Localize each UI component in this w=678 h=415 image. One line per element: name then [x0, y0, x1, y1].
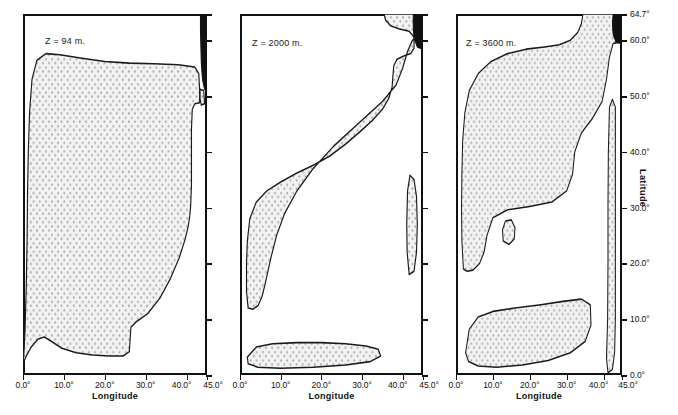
longitude-tick-label: 45.0°	[419, 380, 438, 390]
latitude-tick-label: 50.0°	[630, 91, 649, 101]
longitude-tick-label: 20.0°	[312, 380, 331, 390]
longitude-tick-label: 10.0°	[54, 380, 73, 390]
contour-region	[247, 14, 423, 309]
longitude-tick-label: 0.0°	[16, 380, 31, 390]
latitude-tick	[206, 96, 212, 98]
x-axis: 0.0°10.0°20.0°30.0°40.0°45.0°Longitude	[23, 375, 207, 401]
longitude-tick-label: 10.0°	[271, 380, 290, 390]
longitude-tick-label: 30.0°	[557, 380, 576, 390]
latitude-tick	[206, 263, 212, 265]
contour-surface-z3600	[456, 14, 622, 375]
longitude-tick-label: 40.0°	[172, 380, 191, 390]
panel-title: Z = 94 m.	[45, 36, 85, 46]
contour-region	[462, 14, 622, 271]
contour-region	[200, 89, 204, 105]
latitude-tick	[422, 96, 428, 98]
contour-region	[413, 14, 423, 49]
latitude-tick	[422, 263, 428, 265]
longitude-tick-label: 40.0°	[388, 380, 407, 390]
latitude-tick	[422, 375, 428, 377]
longitude-tick-label: 0.0°	[449, 380, 464, 390]
contour-figure: Z = 94 m. 0.0°10.0°20.0°30.0°40.0°45.0°L…	[0, 0, 678, 415]
contour-region	[247, 343, 380, 369]
latitude-tick	[621, 96, 627, 98]
contour-region	[23, 54, 200, 364]
latitude-tick	[206, 152, 212, 154]
longitude-tick-label: 20.0°	[520, 380, 539, 390]
latitude-tick	[621, 375, 627, 377]
latitude-tick	[621, 319, 627, 321]
latitude-tick	[206, 208, 212, 210]
contour-region	[200, 14, 207, 90]
latitude-tick-label: 10.0°	[630, 314, 649, 324]
contour-region	[407, 175, 418, 274]
region-group	[23, 14, 207, 364]
longitude-tick-label: 30.0°	[352, 380, 371, 390]
longitude-tick-label: 40.0°	[589, 380, 608, 390]
latitude-tick-label: 40.0°	[630, 147, 649, 157]
contour-region	[607, 99, 616, 372]
longitude-tick-label: 45.0°	[203, 380, 222, 390]
latitude-tick	[422, 208, 428, 210]
latitude-tick	[621, 14, 627, 16]
x-axis-title: Longitude	[308, 391, 354, 401]
x-axis: 0.0°10.0°20.0°30.0°40.0°45.0°Longitude	[456, 375, 622, 401]
longitude-tick-label: 0.0°	[233, 380, 248, 390]
panel-z94: Z = 94 m. 0.0°10.0°20.0°30.0°40.0°45.0°L…	[23, 14, 207, 375]
latitude-tick	[206, 14, 212, 16]
panel-title: Z = 3600 m.	[466, 38, 516, 48]
latitude-tick	[621, 208, 627, 210]
latitude-tick-label: 20.0°	[630, 258, 649, 268]
longitude-tick-label: 20.0°	[95, 380, 114, 390]
panel-title: Z = 2000 m.	[252, 38, 302, 48]
latitude-tick	[621, 263, 627, 265]
contour-surface-z2000	[240, 14, 423, 375]
latitude-tick-label: 64.7°	[630, 9, 649, 19]
contour-surface-z94	[23, 14, 207, 375]
x-axis-title: Longitude	[92, 391, 138, 401]
x-axis-title: Longitude	[516, 391, 562, 401]
longitude-tick-label: 45.0°	[618, 380, 637, 390]
panel-z2000: Z = 2000 m. 0.0°10.0°20.0°30.0°40.0°45.0…	[240, 14, 423, 375]
region-group	[247, 14, 423, 368]
region-group	[462, 14, 622, 373]
latitude-tick	[621, 40, 627, 42]
latitude-tick	[422, 319, 428, 321]
latitude-tick	[206, 375, 212, 377]
longitude-tick-label: 10.0°	[483, 380, 502, 390]
longitude-tick-label: 30.0°	[136, 380, 155, 390]
contour-region	[502, 220, 515, 245]
latitude-tick	[206, 319, 212, 321]
x-axis: 0.0°10.0°20.0°30.0°40.0°45.0°Longitude	[240, 375, 423, 401]
latitude-tick	[621, 152, 627, 154]
y-axis-title: Latitude	[638, 169, 648, 207]
panel-z3600: Z = 3600 m. 0.0°10.0°20.0°30.0°40.0°45.0…	[456, 14, 622, 375]
latitude-tick-label: 0.0°	[630, 370, 645, 380]
latitude-tick	[422, 40, 428, 42]
latitude-tick	[422, 14, 428, 16]
contour-region	[466, 299, 591, 367]
latitude-tick	[206, 40, 212, 42]
latitude-tick-label: 60.0°	[630, 35, 649, 45]
latitude-tick	[422, 152, 428, 154]
